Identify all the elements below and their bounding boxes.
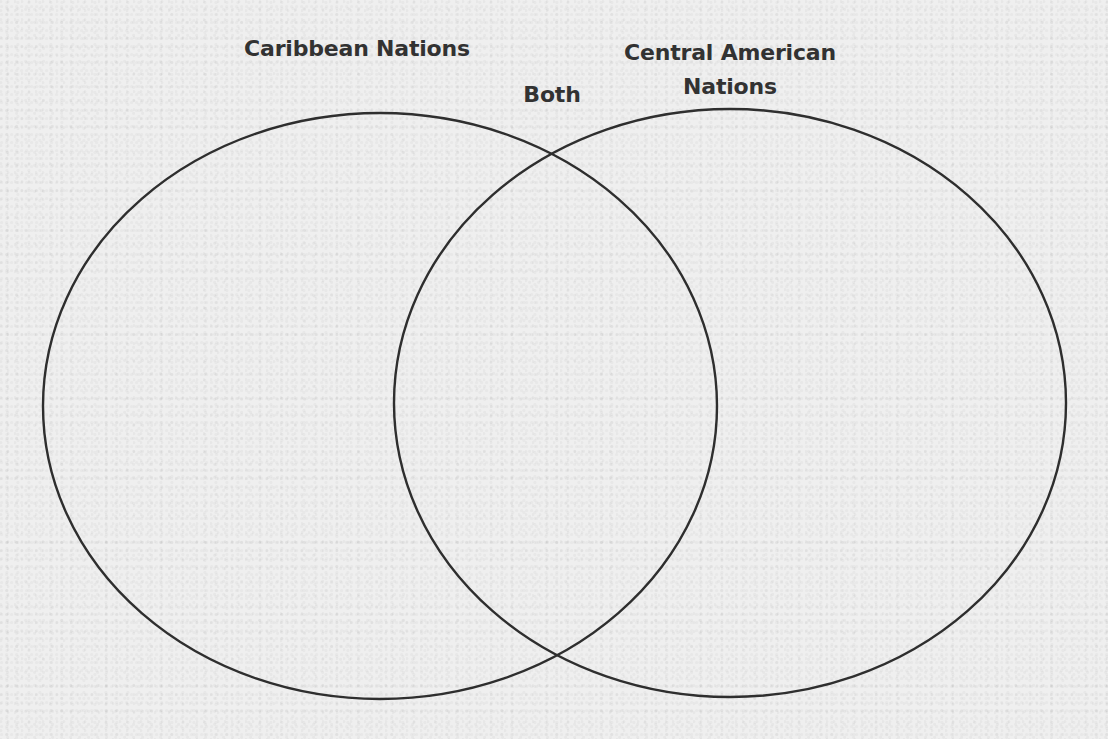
central-american-nations-label: Central American Nations — [600, 36, 860, 104]
caribbean-nations-label: Caribbean Nations — [227, 36, 487, 62]
central-american-label-line1: Central American — [600, 36, 860, 70]
central-american-nations-circle — [394, 109, 1066, 697]
venn-diagram: Caribbean Nations Central American Natio… — [0, 0, 1108, 739]
both-label: Both — [502, 82, 602, 108]
central-american-label-line2: Nations — [600, 70, 860, 104]
caribbean-nations-circle — [43, 113, 717, 699]
venn-circles — [0, 0, 1108, 739]
